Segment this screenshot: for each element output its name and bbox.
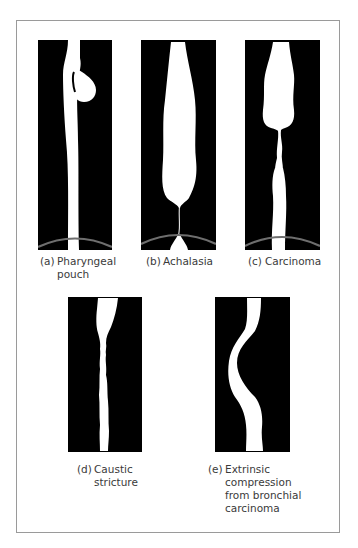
carcinoma-illustration xyxy=(245,40,320,250)
panel-pharyngeal-pouch xyxy=(38,40,112,250)
label-c: (c)Carcinoma xyxy=(248,255,321,268)
label-e: (e)Extrinsiccompressionfrom bronchialcar… xyxy=(208,463,301,515)
panel-caustic-stricture xyxy=(68,297,142,452)
achalasia-illustration xyxy=(141,40,216,250)
label-b: (b)Achalasia xyxy=(146,255,213,268)
label-d: (d)Causticstricture xyxy=(77,463,138,489)
caustic-stricture-illustration xyxy=(68,297,142,452)
panel-achalasia xyxy=(141,40,216,250)
pharyngeal-pouch-illustration xyxy=(38,40,112,250)
extrinsic-compression-illustration xyxy=(215,297,290,452)
panel-extrinsic-compression xyxy=(215,297,290,452)
panel-carcinoma xyxy=(245,40,320,250)
label-a: (a)Pharyngealpouch xyxy=(40,255,116,281)
